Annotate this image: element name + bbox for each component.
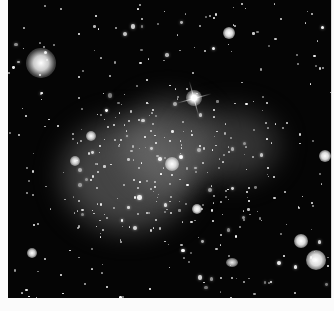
star-dot [124,124,125,125]
star-dot [78,76,80,78]
star-dot [175,88,176,89]
galaxy-left-cluster-2 [86,131,96,141]
star-dot [43,46,45,48]
star-dot [91,268,93,270]
star-dot [127,206,130,209]
star-dot [204,50,206,52]
star-dot [185,203,187,205]
star-dot [259,217,261,219]
star-dot [252,156,254,158]
star-dot [69,250,71,252]
star-dot [95,15,97,17]
star-dot [137,195,141,199]
star-dot [188,261,190,263]
star-dot [245,103,247,105]
star-dot [253,101,254,102]
star-dot [305,22,306,23]
star-dot [78,97,80,99]
star-dot [311,229,312,230]
star-dot [216,100,218,102]
star-dot [98,28,99,29]
star-dot [241,3,243,5]
star-dot [170,212,172,214]
star-dot [203,282,204,283]
star-dot [156,155,158,157]
star-dot [256,31,258,33]
star-dot [275,123,277,125]
star-dot [28,180,30,182]
star-dot [141,25,144,28]
star-dot [103,165,105,167]
star-dot [218,167,220,169]
star-dot [105,109,108,112]
star-dot [146,212,147,213]
star-dot [220,244,221,245]
star-dot [165,53,168,56]
star-dot [299,133,301,135]
star-dot [327,265,329,267]
star-dot [195,171,197,173]
star-dot [92,175,94,177]
star-dot [190,252,192,254]
star-dot [213,195,215,197]
star-dot [100,114,102,116]
star-dot [212,220,214,222]
star-dot [317,40,318,41]
star-dot [81,108,83,110]
bright-galaxy-lower-right [294,234,308,248]
star-dot [182,221,184,223]
star-dot [76,160,77,161]
star-dot [145,147,146,148]
star-dot [185,13,186,14]
star-dot [123,184,125,186]
star-dot [128,120,130,122]
star-dot [211,210,213,212]
star-dot [262,110,263,111]
star-dot [44,5,46,7]
star-dot [235,235,237,237]
star-dot [243,219,245,221]
star-dot [150,188,151,189]
star-dot [267,167,269,169]
star-dot [199,25,201,27]
star-dot [213,116,215,118]
star-dot [17,61,20,64]
star-dot [119,144,120,145]
star-dot [319,67,321,69]
star-dot [32,170,34,172]
star-dot [131,24,135,28]
star-dot [183,257,185,259]
star-dot [236,278,237,279]
star-dot [274,3,275,4]
star-dot [53,44,55,46]
star-dot [130,110,132,112]
star-dot [85,178,88,181]
star-dot [141,119,145,123]
star-dot [149,288,151,290]
star-dot [294,265,297,268]
star-dot [246,191,248,193]
star-dot [139,181,141,183]
star-dot [171,174,173,176]
star-dot [199,113,203,117]
bright-galaxy-bottom-right [306,250,326,270]
star-dot [14,43,17,46]
star-dot [109,75,111,77]
star-dot [32,194,34,196]
star-dot [198,237,199,238]
star-dot [228,255,230,257]
star-dot [277,261,281,265]
star-dot [25,289,27,291]
star-dot [181,144,182,145]
star-dot [215,13,217,15]
star-dot [179,50,181,52]
star-dot [37,271,39,273]
star-dot [140,49,142,51]
star-dot [210,277,213,280]
star-dot [164,241,166,243]
star-dot [96,226,97,227]
star-dot [44,258,45,259]
star-dot [113,207,115,209]
star-dot [120,241,122,243]
bottom-margin [0,298,334,311]
